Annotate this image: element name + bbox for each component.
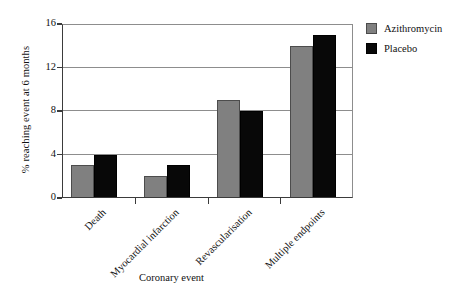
x-axis-title: Coronary event — [139, 272, 204, 283]
chart-legend: AzithromycinPlacebo — [366, 20, 442, 60]
x-tick-mark — [135, 198, 136, 204]
plot-area — [62, 24, 353, 198]
bar-chart: % reaching event at 6 months 0481216 Dea… — [0, 0, 470, 299]
legend-item: Azithromycin — [366, 20, 442, 36]
black-swatch-icon — [366, 43, 377, 54]
bar — [94, 155, 117, 199]
y-tick-label: 4 — [26, 149, 56, 160]
y-tick-label: 16 — [26, 18, 56, 29]
legend-item: Placebo — [366, 40, 442, 56]
y-tick-label: 12 — [26, 62, 56, 73]
y-tick-label: 0 — [26, 192, 56, 203]
x-tick-mark — [208, 198, 209, 204]
bars-layer — [62, 24, 353, 198]
x-tick-mark — [280, 198, 281, 204]
bar — [240, 111, 263, 198]
gray-swatch-icon — [366, 23, 377, 34]
bar — [313, 35, 336, 198]
bar — [167, 165, 190, 198]
legend-item-label: Azithromycin — [384, 23, 442, 34]
bar — [71, 165, 94, 198]
legend-item-label: Placebo — [384, 43, 417, 54]
bar — [290, 46, 313, 198]
y-tick-label: 8 — [26, 105, 56, 116]
bar — [144, 176, 167, 198]
x-category-label: Death — [0, 207, 108, 299]
bar — [217, 100, 240, 198]
